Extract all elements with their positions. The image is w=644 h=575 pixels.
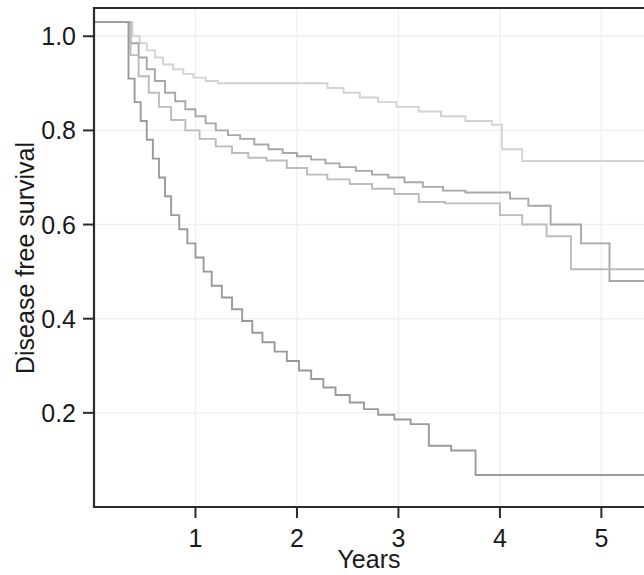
- y-axis-title: Disease free survival: [11, 142, 39, 374]
- y-tick-label: 0.2: [41, 399, 76, 427]
- x-tick-label: 4: [493, 524, 507, 552]
- x-axis-title: Years: [337, 545, 400, 573]
- kaplan-meier-figure: 12345 0.20.40.60.81.0 Years Disease free…: [0, 0, 644, 575]
- curve-layer: [94, 22, 644, 475]
- x-tick-label: 1: [189, 524, 203, 552]
- survival-curve-1: [94, 22, 644, 161]
- grid-layer: [94, 8, 644, 507]
- survival-chart: 12345 0.20.40.60.81.0 Years Disease free…: [0, 0, 644, 575]
- y-tick-label: 0.6: [41, 211, 76, 239]
- y-tick-label: 1.0: [41, 22, 76, 50]
- x-tick-label: 5: [594, 524, 608, 552]
- survival-curve-3: [94, 22, 644, 269]
- survival-curve-2: [94, 22, 644, 281]
- tick-layer: [83, 36, 601, 518]
- survival-curve-4: [94, 22, 644, 475]
- y-tick-label: 0.8: [41, 116, 76, 144]
- x-tick-label: 2: [290, 524, 304, 552]
- y-tick-label: 0.4: [41, 305, 76, 333]
- y-tick-labels: 0.20.40.60.81.0: [41, 22, 76, 427]
